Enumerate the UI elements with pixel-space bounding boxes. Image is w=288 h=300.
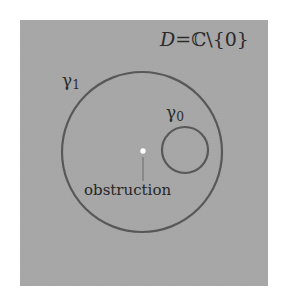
domain-label: D=ℂ\{0}: [160, 30, 249, 49]
gamma-1-subscript: 1: [72, 78, 80, 92]
gamma-0-label: γ0: [166, 104, 184, 124]
gamma-0-base: γ: [166, 102, 176, 122]
figure-root: D=ℂ\{0} γ1 γ0 obstruction: [0, 0, 288, 300]
gamma-0-curve: [162, 127, 208, 173]
gamma-1-label: γ1: [62, 72, 80, 92]
domain-symbol: D: [160, 28, 175, 50]
gamma-1-base: γ: [62, 70, 72, 90]
origin-puncture-point: [140, 148, 145, 153]
obstruction-label: obstruction: [84, 183, 171, 198]
domain-equals: =: [175, 28, 191, 50]
gamma-0-subscript: 0: [176, 110, 184, 124]
domain-set: ℂ\{0}: [191, 28, 249, 50]
